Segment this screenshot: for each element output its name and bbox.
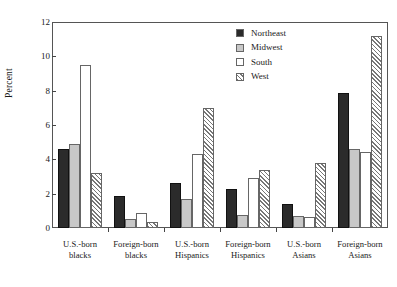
y-tick-mark (52, 194, 56, 195)
legend-item-midwest: Midwest (236, 41, 346, 56)
bar-northeast (170, 183, 181, 228)
legend-label: Northeast (251, 29, 286, 38)
y-tick-label: 12 (30, 18, 50, 27)
x-tick-mark (276, 228, 277, 232)
legend-swatch-south-icon (236, 58, 244, 66)
bar-south (304, 217, 315, 228)
bar-south (136, 213, 147, 228)
y-tick-mark (52, 125, 56, 126)
bar-northeast (114, 196, 125, 228)
y-tick-label: 0 (30, 224, 50, 233)
legend-swatch-west-icon (236, 73, 244, 81)
bar-northeast (338, 93, 349, 228)
legend-label: Midwest (251, 43, 283, 52)
bar-west (315, 163, 326, 228)
y-tick-label: 10 (30, 52, 50, 61)
legend-swatch-midwest-icon (236, 44, 244, 52)
x-axis: U.S.-bornblacksForeign-bornblacksU.S.-bo… (52, 228, 388, 286)
y-tick-mark (52, 91, 56, 92)
y-tick-mark (52, 56, 56, 57)
x-group-label-line: Asians (326, 250, 394, 261)
bar-west (203, 108, 214, 228)
bar-south (192, 154, 203, 228)
bar-midwest (69, 144, 80, 228)
bar-south (248, 178, 259, 228)
legend-swatch-northeast-icon (236, 29, 244, 37)
bar-west (259, 170, 270, 228)
y-tick-label: 8 (30, 86, 50, 95)
bar-midwest (181, 199, 192, 228)
legend-label: West (251, 72, 269, 81)
x-tick-mark (164, 228, 165, 232)
x-tick-mark (108, 228, 109, 232)
legend-item-south: South (236, 55, 346, 70)
x-group-label: Foreign-bornAsians (326, 239, 394, 261)
bar-west (91, 173, 102, 228)
y-tick-label: 6 (30, 121, 50, 130)
y-tick-label: 4 (30, 155, 50, 164)
bar-midwest (349, 149, 360, 228)
y-tick-mark (52, 159, 56, 160)
x-group-label-line: Foreign-born (326, 239, 394, 250)
bar-midwest (237, 215, 248, 228)
bar-west (371, 36, 382, 228)
y-tick-label: 2 (30, 189, 50, 198)
legend: NortheastMidwestSouthWest (236, 26, 346, 84)
legend-item-northeast: Northeast (236, 26, 346, 41)
bar-south (80, 65, 91, 228)
bar-northeast (226, 189, 237, 228)
x-tick-mark (332, 228, 333, 232)
x-tick-mark (220, 228, 221, 232)
bar-northeast (58, 149, 69, 228)
y-axis-title: Percent (4, 68, 14, 98)
bar-northeast (282, 204, 293, 228)
bar-chart: 024681012 Percent U.S.-bornblacksForeign… (0, 0, 397, 287)
bar-midwest (293, 216, 304, 228)
bar-midwest (125, 219, 136, 228)
legend-label: South (251, 58, 272, 67)
legend-item-west: West (236, 70, 346, 85)
bar-south (360, 152, 371, 228)
